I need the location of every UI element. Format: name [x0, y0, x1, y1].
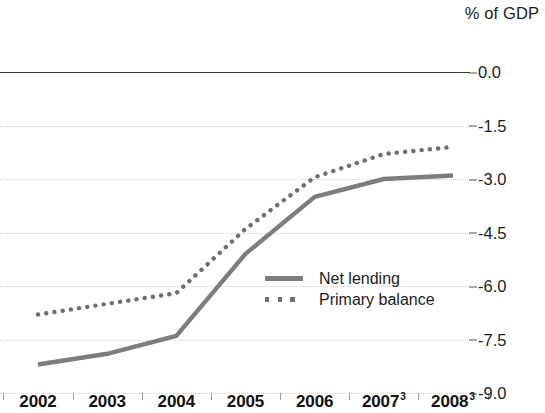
y-axis-labels: 0.0-1.5-3.0-4.5-6.0-7.5-9.0 — [478, 0, 545, 413]
x-label-footnote-marker: 3 — [400, 391, 405, 402]
legend-swatch-dotted-line-icon — [262, 293, 306, 307]
x-label-footnote-marker: 3 — [469, 391, 474, 402]
y-axis-tick-label: -4.5 — [478, 223, 506, 242]
series-layer — [0, 72, 470, 393]
legend-dot-icon — [278, 297, 282, 301]
x-axis-tick-label: 20073 — [362, 392, 406, 412]
legend-swatch-solid-line-icon — [262, 272, 306, 286]
x-axis-tick-label: 2004 — [158, 392, 195, 412]
x-axis-tick-label: 2003 — [88, 392, 125, 412]
y-axis-tick-label: -3.0 — [478, 170, 506, 189]
y-tick-mark — [469, 179, 477, 180]
y-tick-mark — [469, 233, 477, 234]
legend-dot-icon — [290, 297, 294, 301]
legend-dot-icon — [265, 297, 269, 301]
y-tick-mark — [469, 72, 477, 73]
legend-item-label: Primary balance — [319, 291, 435, 309]
legend-item: Net lending — [262, 268, 462, 289]
chart-container: % of GDP 0.0-1.5-3.0-4.5-6.0-7.5-9.0 200… — [0, 0, 545, 413]
chart-legend: Net lendingPrimary balance — [262, 268, 462, 310]
x-axis-tick-label: 20083 — [431, 392, 475, 412]
x-axis-labels: 200220032004200520062007320083 — [0, 392, 470, 413]
y-tick-mark — [469, 286, 477, 287]
y-tick-mark — [469, 340, 477, 341]
y-axis-tick-label: -7.5 — [478, 330, 506, 349]
x-axis-tick-label: 2002 — [19, 392, 56, 412]
legend-item-label: Net lending — [319, 270, 400, 288]
x-axis-tick-label: 2006 — [296, 392, 333, 412]
y-tick-mark — [469, 126, 477, 127]
plot-area — [0, 72, 470, 393]
y-axis-tick-label: -9.0 — [478, 384, 506, 403]
y-axis-tick-label: -6.0 — [478, 277, 506, 296]
x-axis-tick-label: 2005 — [227, 392, 264, 412]
y-axis-tick-label: 0.0 — [478, 63, 501, 82]
legend-item: Primary balance — [262, 289, 462, 310]
y-axis-tick-label: -1.5 — [478, 116, 506, 135]
